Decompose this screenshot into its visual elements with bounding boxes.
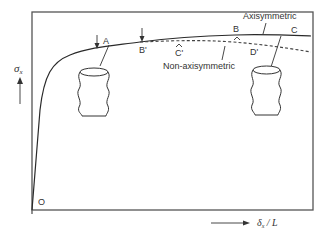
svg-text:δx / L: δx / L [257,217,278,229]
specimen-axisymmetric-icon [78,68,109,116]
svg-text:B: B [233,24,239,34]
svg-text:C': C' [175,48,183,58]
y-axis-arrow-icon [17,77,23,104]
point-label-d-prime: D' [250,47,258,57]
point-c-prime: C' [175,44,183,58]
specimen-leader [100,45,109,66]
x-axis-arrow-icon [211,221,250,226]
point-label-a: A [103,36,109,46]
non-axisymmetric-label: Non-axisymmetric [163,61,236,71]
specimen-leader [271,36,281,67]
x-axis-label: δx / L [257,217,278,229]
non-axisymmetric-leader [222,46,225,60]
non-axisymmetric-curve [140,41,311,52]
axisymmetric-leader [263,23,266,34]
point-label-b-prime: B' [139,45,147,55]
y-axis-label: σx [14,62,23,76]
point-b: B [233,24,240,40]
axisymmetric-label: Axisymmetric [243,11,297,21]
specimen-non-axisymmetric-icon [251,66,281,115]
arrow-down-icon [140,28,145,42]
origin-label: O [38,197,45,207]
svg-text:σx: σx [14,62,23,76]
point-label-c: C [291,25,298,35]
stress-strain-diagram: σx δx / L O A B' C' B D' C Axisymmetric … [0,0,329,242]
